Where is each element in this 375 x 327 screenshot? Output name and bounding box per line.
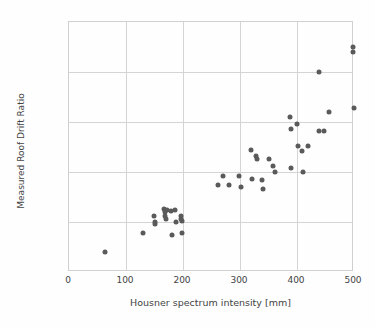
- data-point: [288, 115, 293, 120]
- data-point: [248, 148, 253, 153]
- data-point: [153, 222, 158, 227]
- gridline-horizontal: [69, 122, 352, 123]
- data-point: [316, 70, 321, 75]
- data-point: [300, 170, 305, 175]
- data-point: [306, 143, 311, 148]
- data-point: [288, 165, 293, 170]
- y-axis-title: Measured Roof Drift Ratio: [16, 51, 26, 251]
- data-point: [169, 233, 174, 238]
- x-tick-label: 400: [276, 275, 316, 285]
- data-point: [151, 214, 156, 219]
- gridline-vertical: [126, 22, 127, 270]
- data-point: [352, 106, 357, 111]
- data-point: [102, 250, 107, 255]
- data-point: [351, 50, 356, 55]
- x-tick-label: 300: [219, 275, 259, 285]
- scatter-chart: Measured Roof Drift Ratio 0.0%1.0%2.0%3.…: [0, 0, 375, 327]
- data-point: [249, 176, 254, 181]
- x-axis-title: Housner spectrum intensity [mm]: [68, 297, 353, 308]
- data-point: [238, 185, 243, 190]
- data-point: [180, 231, 185, 236]
- data-point: [221, 174, 226, 179]
- x-tick-label: 100: [105, 275, 145, 285]
- gridline-horizontal: [69, 72, 352, 73]
- x-tick-label: 500: [333, 275, 373, 285]
- data-point: [327, 110, 332, 115]
- data-point: [272, 170, 277, 175]
- data-point: [261, 187, 266, 192]
- gridline-horizontal: [69, 222, 352, 223]
- data-point: [288, 126, 293, 131]
- data-point: [237, 174, 242, 179]
- data-point: [255, 156, 260, 161]
- data-point: [260, 178, 265, 183]
- data-point: [299, 148, 304, 153]
- data-point: [173, 220, 178, 225]
- gridline-horizontal: [69, 172, 352, 173]
- data-point: [271, 163, 276, 168]
- data-point: [227, 183, 232, 188]
- plot-area: [68, 21, 353, 271]
- data-point: [216, 183, 221, 188]
- data-point: [141, 231, 146, 236]
- gridline-vertical: [240, 22, 241, 270]
- x-tick-label: 0: [48, 275, 88, 285]
- data-point: [266, 157, 271, 162]
- data-point: [295, 143, 300, 148]
- data-point: [179, 219, 184, 224]
- x-tick-label: 200: [162, 275, 202, 285]
- data-point: [173, 208, 178, 213]
- data-point: [295, 121, 300, 126]
- data-point: [163, 217, 168, 222]
- data-point: [321, 128, 326, 133]
